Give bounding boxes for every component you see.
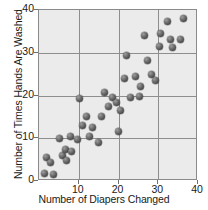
data-point <box>180 15 187 22</box>
x-tick-label: 30 <box>144 183 170 195</box>
data-point <box>68 148 75 155</box>
data-point <box>136 93 143 100</box>
x-tick-label: 20 <box>105 183 131 195</box>
y-tick-label: 30 <box>12 45 34 57</box>
gridline-horizontal <box>39 96 196 97</box>
data-point <box>167 36 174 43</box>
data-point <box>47 159 54 166</box>
data-point <box>121 75 128 82</box>
data-point <box>56 135 63 142</box>
data-point <box>164 18 171 25</box>
data-point <box>98 113 105 120</box>
x-tickmark <box>157 180 158 184</box>
data-point <box>83 113 90 120</box>
data-point <box>132 73 139 80</box>
data-point <box>101 89 108 96</box>
data-point <box>113 99 120 106</box>
data-point <box>95 139 102 146</box>
gridline-horizontal <box>39 53 196 54</box>
x-tick-label: 10 <box>65 183 91 195</box>
data-point <box>86 133 93 140</box>
data-point <box>67 133 74 140</box>
data-point <box>105 103 112 110</box>
data-point <box>123 52 130 59</box>
data-point <box>76 95 83 102</box>
data-point <box>79 122 86 129</box>
data-point <box>144 57 151 64</box>
x-tickmark <box>118 180 119 184</box>
data-point <box>156 43 163 50</box>
x-tickmark <box>78 180 79 184</box>
gridline-vertical <box>119 10 120 179</box>
y-tick-label: 20 <box>12 88 34 100</box>
data-point <box>157 30 164 37</box>
data-point <box>89 124 96 131</box>
data-point <box>117 107 124 114</box>
y-tick-label: 40 <box>12 2 34 14</box>
y-tick-label: 10 <box>12 130 34 142</box>
plot-area <box>38 9 197 180</box>
data-point <box>127 94 134 101</box>
data-point <box>63 157 70 164</box>
data-point <box>137 83 144 90</box>
y-tickmark <box>34 180 38 181</box>
data-point <box>141 32 148 39</box>
data-point <box>41 170 48 177</box>
data-point <box>50 171 57 178</box>
x-tick-label: 40 <box>184 183 208 195</box>
y-tick-label: 0 <box>12 173 34 185</box>
data-point <box>115 128 122 135</box>
data-point <box>177 36 184 43</box>
scatter-plot-figure: Number of Times Hands Are Washed Number … <box>0 0 208 210</box>
x-tickmark <box>197 180 198 184</box>
data-point <box>74 136 81 143</box>
data-point <box>169 44 176 51</box>
